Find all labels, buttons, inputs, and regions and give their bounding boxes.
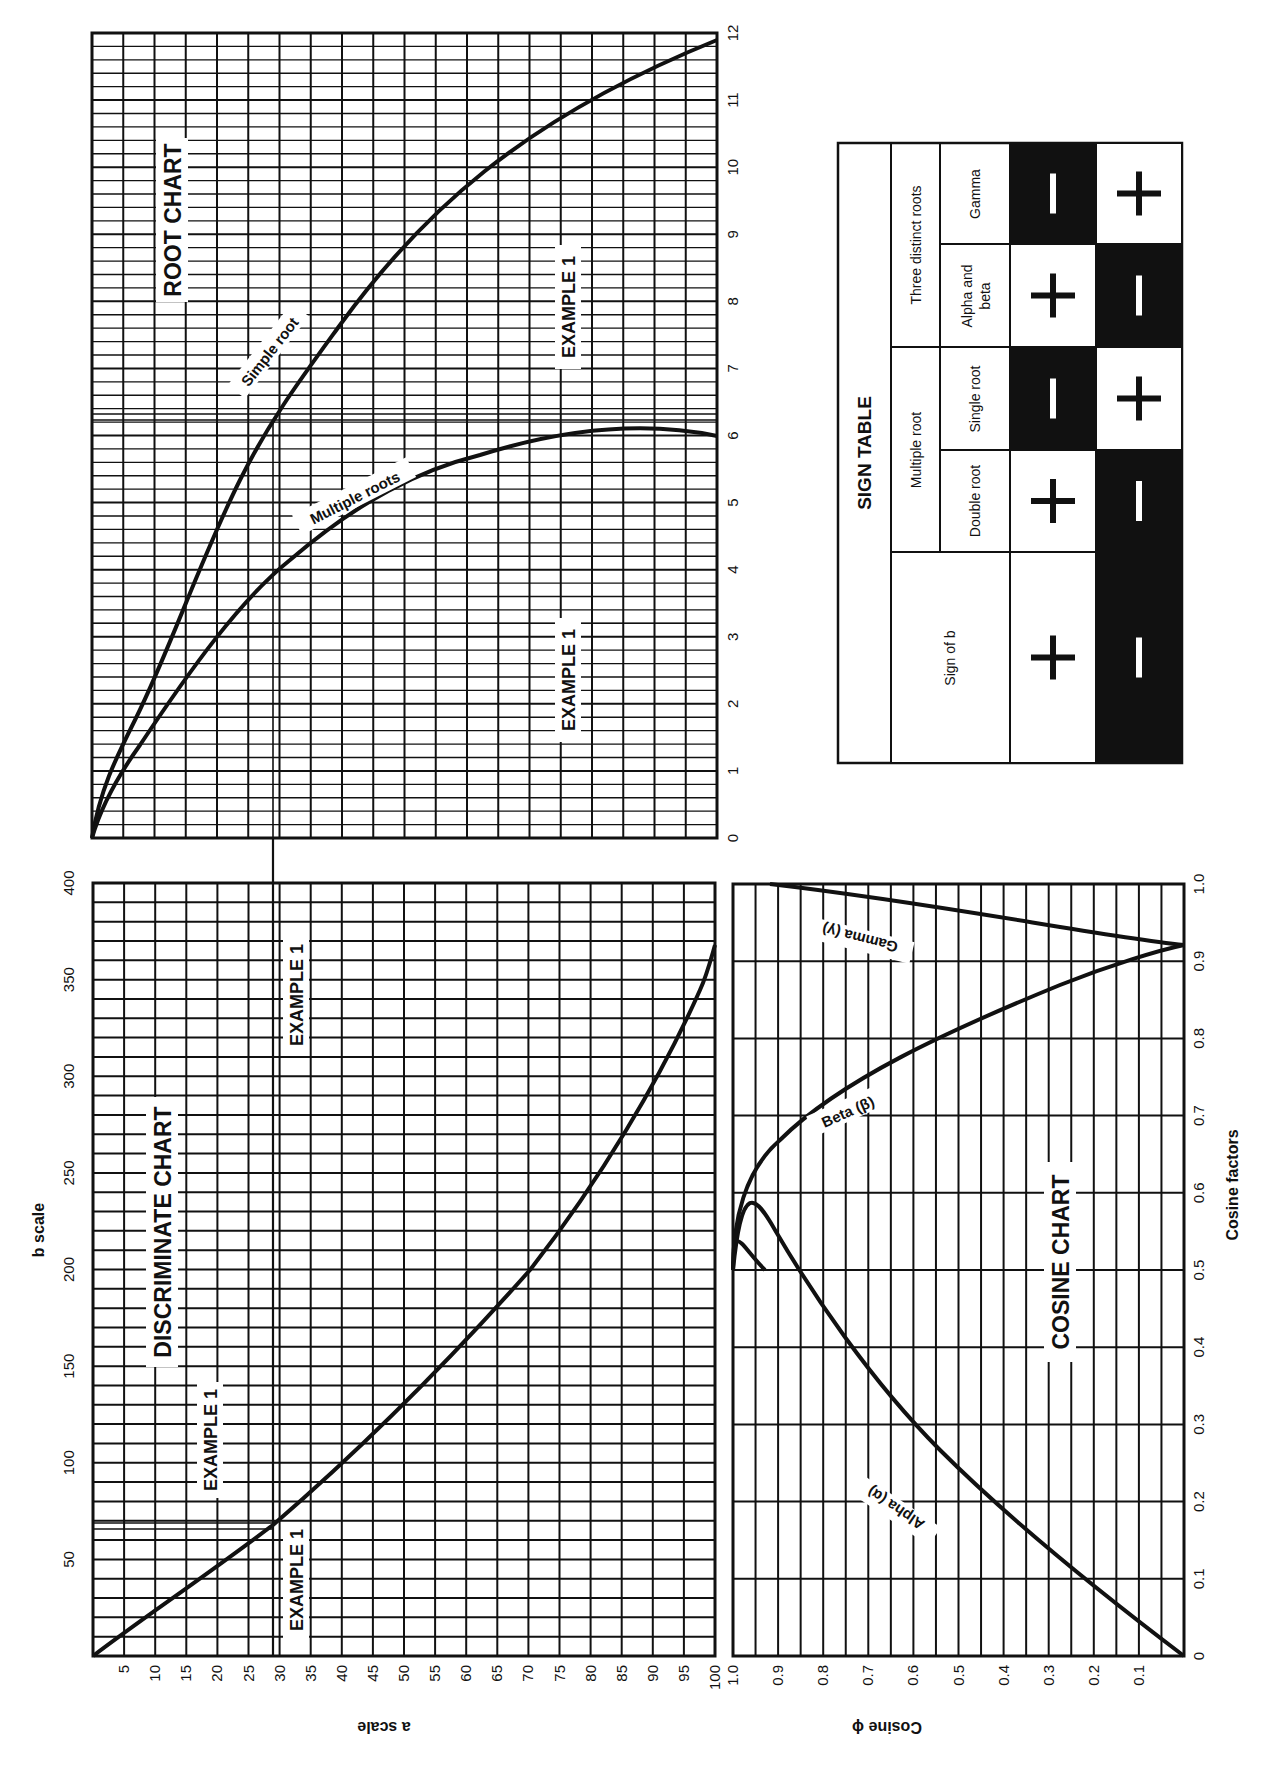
header-double-root: Double root [967,465,983,537]
minus-sign-icon [1050,174,1056,214]
root-tick-label: 1 [724,767,741,775]
root-example-label: EXAMPLE 1 [559,629,579,731]
a-tick-label: 85 [613,1665,630,1682]
alpha-label-group: Alpha (α) [849,1474,941,1546]
discriminate-chart: DISCRIMINATE CHART EXAMPLE 1 EXAMPLE 1 E… [30,838,723,1736]
b-tick-label: 50 [60,1551,77,1568]
cosine-axis-ticks: 1.00.90.80.70.60.50.40.30.20.100.10.20.3… [724,874,1207,1686]
header-alpha-and-beta-1: Alpha and [959,264,975,327]
multiple-roots-label: Multiple roots [307,468,402,528]
discriminate-chart-grid [93,883,715,1656]
a-tick-label: 35 [302,1665,319,1682]
b-tick-label: 200 [60,1257,77,1282]
plus-sign-icon [1031,498,1075,504]
a-tick-label: 20 [208,1665,225,1682]
discriminate-example-label-group: EXAMPLE 1 [197,1382,223,1498]
header-alpha-and-beta-2: beta [977,282,993,309]
a-tick-label: 95 [675,1665,692,1682]
cosine-title-group: COSINE CHART [1044,1162,1076,1362]
cosine-factors-label: Cosine factors [1224,1129,1241,1240]
plus-sign-icon [1031,293,1075,299]
discriminate-title-group: DISCRIMINATE CHART [146,1097,178,1367]
cosine-phi-tick-label: 0.2 [1085,1665,1102,1686]
plus-sign-icon [1117,191,1161,197]
cosine-phi-tick-label: 0.9 [769,1665,786,1686]
cosine-phi-tick-label: 0.5 [950,1665,967,1686]
root-chart-title: ROOT CHART [160,143,186,296]
cosine-factor-tick-label: 0.2 [1190,1491,1207,1512]
sign-table-cells: −+−+++−+−− [1010,143,1182,763]
root-tick-label: 9 [724,230,741,238]
plus-sign-icon [1117,396,1161,402]
a-tick-label: 55 [426,1665,443,1682]
cosine-factor-tick-label: 0.9 [1190,951,1207,972]
cosine-phi-tick-label: 0.7 [859,1665,876,1686]
gamma-label-group: Gamma (γ) [804,916,914,963]
a-tick-label: 60 [457,1665,474,1682]
discriminate-example-label: EXAMPLE 1 [287,944,307,1046]
minus-sign-icon [1050,379,1056,419]
cosine-phi-label: Cosine ϕ [852,1719,922,1736]
root-tick-label: 10 [724,159,741,176]
discriminate-example-label: EXAMPLE 1 [287,1529,307,1631]
a-tick-label: 10 [146,1665,163,1682]
b-scale-label: b scale [30,1203,47,1257]
root-tick-label: 7 [724,364,741,372]
header-multiple-root: Multiple root [908,412,924,488]
root-tick-label: 11 [724,92,741,108]
b-tick-label: 400 [60,870,77,895]
a-tick-label: 30 [271,1665,288,1682]
discriminate-example-label-group: EXAMPLE 1 [283,937,309,1053]
root-tick-label: 2 [724,700,741,708]
root-axis-ticks: 0123456789101112 [724,25,741,843]
cosine-phi-tick-label: 0.4 [995,1665,1012,1686]
cosine-factor-tick-label: 0.4 [1190,1337,1207,1358]
root-chart: ROOT CHART Simple root Multiple roots EX… [92,25,741,883]
cosine-phi-tick-label: 1.0 [724,1665,741,1686]
cosine-factor-tick-label: 1.0 [1190,874,1207,895]
discriminate-example-label: EXAMPLE 1 [201,1389,221,1491]
discriminate-example-label-group: EXAMPLE 1 [283,1522,309,1638]
cosine-chart-title: COSINE CHART [1048,1174,1074,1349]
header-single-root: Single root [967,365,983,432]
header-gamma: Gamma [967,169,983,219]
b-tick-label: 150 [60,1354,77,1379]
root-example-label-group: EXAMPLE 1 [555,245,581,369]
cosine-factor-tick-label: 0.3 [1190,1414,1207,1435]
discriminate-chart-title: DISCRIMINATE CHART [150,1106,176,1357]
root-tick-label: 4 [724,565,741,573]
root-tick-label: 5 [724,498,741,506]
cosine-factor-tick-label: 0.5 [1190,1260,1207,1281]
cosine-phi-tick-label: 0.3 [1040,1665,1057,1686]
a-tick-label: 40 [333,1665,350,1682]
cosine-factor-tick-label: 0.7 [1190,1105,1207,1126]
a-tick-label: 80 [582,1665,599,1682]
b-tick-label: 350 [60,967,77,992]
a-tick-label: 15 [177,1665,194,1682]
sign-table-title: SIGN TABLE [854,396,875,510]
a-scale-label: a scale [357,1719,410,1736]
beta-label-group: Beta (β) [806,1084,888,1137]
a-tick-label: 50 [395,1665,412,1682]
a-tick-label: 90 [644,1665,661,1682]
minus-sign-icon [1136,276,1142,316]
cosine-phi-tick-label: 0.6 [904,1665,921,1686]
cosine-factor-tick-label: 0.6 [1190,1182,1207,1203]
nomograph-page: ROOT CHART Simple root Multiple roots EX… [0,0,1275,1769]
header-sign-of-b: Sign of b [942,630,958,685]
a-tick-label: 75 [551,1665,568,1682]
root-example-label-group: EXAMPLE 1 [555,618,581,742]
plus-sign-icon [1031,655,1075,661]
root-tick-label: 3 [724,633,741,641]
cosine-phi-tick-label: 0.1 [1130,1665,1147,1686]
a-tick-label: 45 [364,1665,381,1682]
header-three-distinct-roots: Three distinct roots [908,185,924,304]
cosine-factor-tick-label: 0.1 [1190,1568,1207,1589]
root-tick-label: 6 [724,431,741,439]
b-tick-label: 250 [60,1160,77,1185]
cosine-factor-tick-label: 0.8 [1190,1028,1207,1049]
root-chart-title-group: ROOT CHART [156,138,188,302]
cosine-phi-tick-label: 0.8 [814,1665,831,1686]
a-tick-label: 70 [519,1665,536,1682]
root-tick-label: 12 [724,25,741,42]
